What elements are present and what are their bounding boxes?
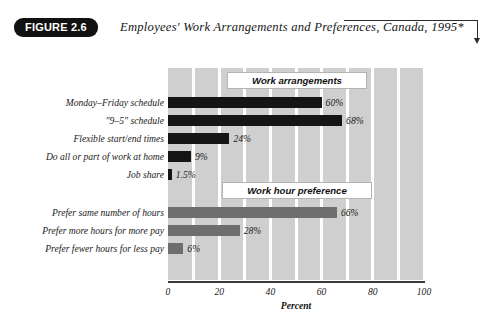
category-label: Prefer fewer hours for less pay: [8, 243, 164, 254]
bar-chart: Monday–Friday schedule"9–5" scheduleFlex…: [0, 50, 491, 312]
section-header-1: Work arrangements: [227, 72, 367, 89]
x-tick-label: 100: [404, 286, 444, 297]
bar-value-label: 28%: [244, 225, 262, 236]
figure-title: Employees' Work Arrangements and Prefere…: [120, 19, 464, 36]
category-label: Flexible start/end times: [8, 133, 164, 144]
header-arrow-icon: [474, 38, 480, 44]
x-axis-title: Percent: [168, 300, 424, 311]
x-axis-line: [168, 281, 425, 283]
category-label-column: Monday–Friday schedule"9–5" scheduleFlex…: [6, 68, 164, 280]
bar: [168, 115, 342, 126]
bar: [168, 207, 337, 218]
category-label: Prefer more hours for more pay: [8, 225, 164, 236]
bar-value-label: 6%: [187, 243, 200, 254]
bar-value-label: 60%: [326, 97, 344, 108]
bar: [168, 225, 240, 236]
bar-value-label: 9%: [195, 151, 208, 162]
figure-header: FIGURE 2.6 Employees' Work Arrangements …: [14, 18, 477, 40]
header-tick: [477, 20, 478, 39]
category-label: Job share: [8, 169, 164, 180]
x-tick-label: 80: [353, 286, 393, 297]
section-header-2: Work hour preference: [222, 182, 372, 199]
bar: [168, 169, 172, 180]
bar-value-label: 24%: [233, 133, 251, 144]
bar-value-label: 1.5%: [176, 169, 196, 180]
gridline: [423, 68, 426, 280]
gridline: [371, 68, 374, 280]
bar: [168, 133, 229, 144]
bar: [168, 97, 322, 108]
category-label: Prefer same number of hours: [8, 207, 164, 218]
x-tick-label: 60: [302, 286, 342, 297]
category-label: Do all or part of work at home: [8, 151, 164, 162]
bar: [168, 243, 183, 254]
bar-value-label: 68%: [346, 115, 364, 126]
x-tick-label: 0: [148, 286, 188, 297]
figure-number-badge: FIGURE 2.6: [14, 18, 98, 37]
gridline: [397, 68, 400, 280]
category-label: Monday–Friday schedule: [8, 97, 164, 108]
bar: [168, 151, 191, 162]
gridline: [346, 68, 349, 280]
x-tick-label: 40: [250, 286, 290, 297]
category-label: "9–5" schedule: [8, 115, 164, 126]
bar-value-label: 66%: [341, 207, 359, 218]
x-tick-label: 20: [199, 286, 239, 297]
